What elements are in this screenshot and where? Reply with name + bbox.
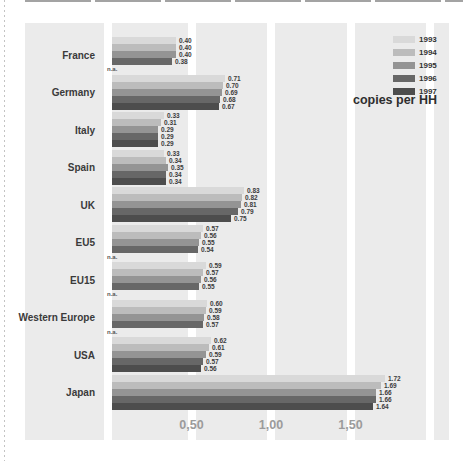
bar-1996 [112,171,166,178]
value-label: 0.83 [247,187,260,194]
bar-row: 1.69 [112,382,442,389]
category-label: EU15 [11,274,95,285]
na-label: n.a. [107,65,117,73]
value-label: 0.82 [245,194,258,201]
bar-group: Italy0.330.310.290.290.29 [25,112,449,147]
bar-row: 0.69 [112,89,442,96]
value-label: 0.55 [202,283,215,290]
bar-1995 [112,89,222,96]
value-label: 0.69 [225,89,238,96]
bar-1993 [112,337,211,344]
bar-group: Japan1.721.691.661.661.64 [25,375,449,410]
category-label: France [11,49,95,60]
value-label: 1.66 [379,396,392,403]
bar-1995 [112,164,168,171]
bar-1996 [112,396,376,403]
bar-1994 [112,269,203,276]
bar-1993 [112,75,225,82]
bar-1995 [112,389,376,396]
value-label: 0.75 [234,215,247,222]
bar-1995 [112,276,201,283]
category-label: Western Europe [11,312,95,323]
bar-1997 [112,103,219,110]
bar-row: n.a. [112,65,442,72]
category-label: Spain [11,162,95,173]
value-label: 0.60 [210,300,223,307]
bar-row: 0.81 [112,201,442,208]
bar-row: 0.62 [112,337,442,344]
bar-row: 0.83 [112,187,442,194]
bar-row: 0.70 [112,82,442,89]
x-tick-label: 1,50 [338,418,362,432]
value-label: 0.40 [179,51,192,58]
value-label: 0.58 [207,314,220,321]
bar-row: 0.38 [112,58,442,65]
bar-1997 [112,365,201,372]
bar-group: France0.400.400.400.38n.a. [25,37,449,72]
bar-1994 [112,82,223,89]
bar-1997 [112,403,373,410]
value-label: 0.34 [169,178,182,185]
x-tick-label: 1,00 [259,418,283,432]
category-label: EU5 [11,237,95,248]
bar-1993 [112,37,176,44]
bar-row: 0.61 [112,344,442,351]
bar-row: 0.79 [112,208,442,215]
bar-group: EU150.590.570.560.55n.a. [25,262,449,297]
bar-row: 0.56 [112,365,442,372]
top-dashed-rule [25,0,463,2]
value-label: 0.33 [167,150,180,157]
value-label: 1.66 [379,389,392,396]
x-tick-label: 0,50 [179,418,203,432]
value-label: 0.38 [175,58,188,65]
category-label: Japan [11,387,95,398]
value-label: 1.64 [376,403,389,410]
bar-1994 [112,344,209,351]
bar-row: 0.57 [112,225,442,232]
na-label: n.a. [107,290,117,298]
bar-row: 0.33 [112,150,442,157]
bar-1995 [112,201,241,208]
bar-row: 0.60 [112,300,442,307]
value-label: 0.55 [202,239,215,246]
bar-1996 [112,283,199,290]
left-dotted-rule [4,0,5,461]
bar-row: 0.59 [112,262,442,269]
bar-row: 0.40 [112,51,442,58]
na-label: n.a. [107,328,117,336]
category-label: USA [11,349,95,360]
bar-1994 [112,232,201,239]
value-label: 0.34 [169,157,182,164]
bar-1997 [112,140,158,147]
value-label: 0.29 [161,126,174,133]
value-label: 0.70 [226,82,239,89]
bar-row: 0.29 [112,126,442,133]
bar-row: n.a. [112,328,442,335]
bar-1996 [112,358,203,365]
bar-row: 0.71 [112,75,442,82]
bar-row: 1.66 [112,389,442,396]
value-label: 0.61 [212,344,225,351]
bar-1995 [112,239,199,246]
value-label: 0.40 [179,44,192,51]
bar-row: 0.75 [112,215,442,222]
value-label: 0.59 [209,262,222,269]
bar-1993 [112,112,164,119]
bar-row: 1.66 [112,396,442,403]
bar-row: 0.68 [112,96,442,103]
bar-1993 [112,300,207,307]
bar-1993 [112,262,206,269]
value-label: 0.40 [179,37,192,44]
bar-group: UK0.830.820.810.790.75 [25,187,449,222]
bar-row: 0.59 [112,351,442,358]
value-label: 0.59 [209,307,222,314]
bar-group: EU50.570.560.550.54n.a. [25,225,449,260]
bar-row: 0.40 [112,44,442,51]
bar-1993 [112,225,203,232]
bar-1995 [112,351,206,358]
bar-row: 0.57 [112,358,442,365]
bar-1997 [112,178,166,185]
value-label: 0.57 [206,358,219,365]
bar-row: 0.35 [112,164,442,171]
value-label: 0.81 [244,201,257,208]
